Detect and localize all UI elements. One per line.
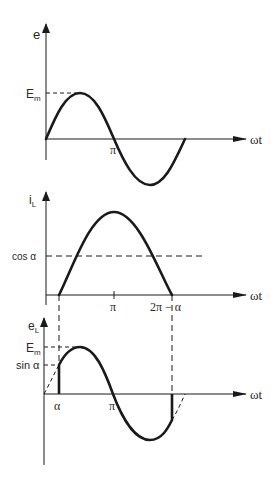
panel-load-voltage: eL ωt Em sin α α π: [16, 318, 263, 465]
sine-dashed-start: [44, 365, 59, 394]
panel-load-current: iL ωt cos α π 2π − α: [12, 192, 263, 394]
tick-label-2pi-minus-alpha: 2π − α: [150, 300, 182, 314]
level-label-cos-alpha: cos α: [12, 251, 36, 262]
y-label-e: e: [33, 27, 40, 42]
tick-label-pi-2: π: [110, 300, 116, 314]
panel-supply-voltage: e ωt Em π: [26, 24, 263, 185]
tick-label-pi-1: π: [110, 143, 116, 157]
current-waveform-il: [59, 212, 172, 295]
x-label-wt-1: ωt: [250, 132, 263, 147]
level-label-sin-alpha: sin α: [16, 359, 40, 371]
x-label-wt-3: ωt: [250, 387, 263, 402]
level-label-em-1: Em: [26, 87, 41, 103]
sine-dashed-end: [172, 394, 185, 420]
tick-label-pi-3: π: [109, 399, 115, 413]
y-label-il: iL: [29, 193, 37, 209]
y-label-el: eL: [28, 319, 40, 335]
level-label-em-3: Em: [26, 341, 41, 357]
waveform-diagram: e ωt Em π iL ωt cos α π 2π − α eL ωt Em …: [0, 0, 275, 482]
x-label-wt-2: ωt: [250, 288, 263, 303]
tick-label-alpha: α: [54, 399, 61, 413]
